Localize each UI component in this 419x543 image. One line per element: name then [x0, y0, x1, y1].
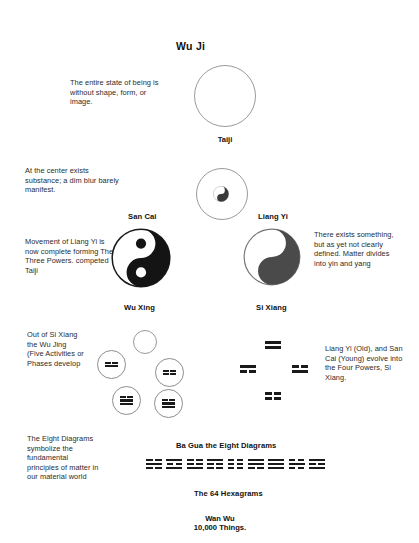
trigram-8-line-2-yang [289, 463, 305, 465]
label-ba-gua: Ba Gua the Eight Diagrams [176, 441, 276, 450]
wu-xing-node-4-seg [162, 406, 175, 408]
wu-xing-node-4 [154, 389, 183, 418]
trigram-2-line-2-yin [166, 463, 182, 465]
trigram-1-seg [155, 459, 162, 461]
trigram-3-seg [187, 467, 203, 469]
wu-xing-node-3-seg [120, 403, 133, 405]
trigram-4-line-3-yin [207, 467, 223, 469]
trigram-7-seg [268, 463, 284, 465]
trigram-1-seg [155, 467, 162, 469]
annotation-wu-xing-left: Movement of Liang Yi is now complete for… [25, 237, 117, 275]
trigram-1 [146, 459, 162, 469]
trigram-2-seg [167, 463, 174, 465]
annotation-si-xiang-left: Out of Si Xiang the Wu Jing (Five Activi… [27, 330, 85, 368]
trigram-5-seg [237, 459, 244, 461]
trigram-6-seg [248, 459, 264, 461]
wu-xing-node-1-seg [105, 362, 111, 364]
trigram-4-seg [216, 467, 223, 469]
wuji-empty-circle [194, 65, 256, 127]
trigram-5 [228, 459, 244, 469]
trigram-5-line-2-yin [228, 463, 244, 465]
trigram-2-seg [176, 463, 183, 465]
si-xiang-left-line-2-yin [240, 370, 256, 373]
wu-xing-node-3-seg [127, 396, 133, 398]
wu-xing-node-3-line-1-yin [120, 396, 133, 398]
si-xiang-bottom-seg [274, 392, 281, 395]
trigram-8-line-1-yin [289, 459, 305, 461]
trigram-3-line-1-yin [187, 459, 203, 461]
wu-xing-node-2-seg [170, 373, 176, 375]
trigram-4-line-1-yang [207, 459, 223, 461]
liang-yi-yinyang-icon [243, 228, 301, 286]
wu-xing-node-2-seg [163, 370, 169, 372]
trigram-8-line-3-yin [289, 467, 305, 469]
label-wan-wu: Wan Wu [180, 514, 260, 523]
trigram-4 [207, 459, 223, 469]
wu-xing-node-1-seg [105, 365, 118, 367]
annotation-si-xiang-right: Liang Yi (Old), and San Cai (Young) evol… [325, 344, 409, 382]
trigram-3-seg [196, 463, 203, 465]
si-xiang-bottom-line-2-yin [265, 397, 281, 400]
wu-xing-node-2-seg [163, 373, 169, 375]
trigram-2-line-3-yang [166, 467, 182, 469]
wu-xing-node-3-line-2-yang [120, 399, 133, 401]
trigram-4-seg [207, 467, 214, 469]
trigram-9-seg [318, 463, 325, 465]
wu-xing-empty-circle [133, 330, 157, 354]
trigram-1-line-3-yin [146, 467, 162, 469]
trigram-9-line-2-yin [309, 463, 325, 465]
si-xiang-left-bigram [240, 365, 256, 373]
trigram-8-seg [289, 459, 296, 461]
trigram-1-line-1-yin [146, 459, 162, 461]
trigram-1-seg [146, 467, 153, 469]
si-xiang-top-bigram [265, 341, 281, 349]
trigram-5-seg [237, 467, 244, 469]
trigram-6-line-1-yang [248, 459, 264, 461]
taiji-small-yinyang-icon [213, 186, 229, 202]
wu-xing-node-4-line-1-yin [162, 399, 175, 401]
label-taiji: Taiji [196, 135, 254, 144]
si-xiang-top-line-2-yang [265, 346, 281, 349]
trigram-1-seg [146, 463, 162, 465]
annotation-wuji: The entire state of being is without sha… [70, 78, 162, 107]
si-xiang-left-seg [249, 370, 256, 373]
si-xiang-top-seg [265, 346, 281, 349]
si-xiang-bottom-seg [274, 397, 281, 400]
annotation-liang-yi-right: There exists something, but as yet not c… [314, 230, 400, 268]
trigram-9-line-3-yang [309, 467, 325, 469]
trigram-9 [309, 459, 325, 469]
trigram-2 [166, 459, 182, 469]
wu-xing-node-2-line-1-yin [163, 370, 176, 372]
annotation-taiji: At the center exists substance; a dim bl… [25, 166, 121, 195]
si-xiang-left-seg [240, 370, 247, 373]
trigram-5-seg [237, 463, 244, 465]
si-xiang-left-seg [240, 365, 256, 368]
wu-xing-node-3-seg [120, 399, 133, 401]
trigram-7-seg [268, 467, 284, 469]
si-xiang-right-bigram [292, 365, 308, 373]
trigram-8-seg [289, 463, 305, 465]
label-si-xiang: Si Xiang [256, 303, 287, 312]
wu-xing-node-1-line-2-yang [105, 365, 118, 367]
wu-xing-node-4-seg [162, 402, 175, 404]
trigram-8-seg [289, 467, 296, 469]
wu-xing-node-2 [155, 358, 184, 387]
trigram-6-seg [248, 463, 264, 465]
label-hexagrams: The 64 Hexagrams [194, 489, 263, 498]
trigram-6-seg [248, 467, 255, 469]
trigram-3-seg [187, 459, 194, 461]
wu-xing-node-2-line-2-yin [163, 373, 176, 375]
si-xiang-right-seg [292, 370, 308, 373]
trigram-2-seg [166, 467, 182, 469]
trigram-4-line-2-yin [207, 463, 223, 465]
si-xiang-right-line-1-yin [292, 365, 308, 368]
trigram-9-seg [309, 459, 325, 461]
trigram-3-line-2-yin [187, 463, 203, 465]
wu-xing-node-1-line-1-yin [105, 362, 118, 364]
trigram-1-line-2-yang [146, 463, 162, 465]
si-xiang-bottom-seg [265, 397, 272, 400]
si-xiang-top-line-1-yang [265, 341, 281, 344]
si-xiang-right-line-2-yang [292, 370, 308, 373]
wu-xing-node-3-seg [120, 396, 126, 398]
trigram-4-seg [207, 463, 214, 465]
